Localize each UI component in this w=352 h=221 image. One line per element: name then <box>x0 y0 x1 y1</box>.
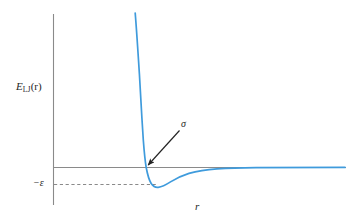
y-axis-label-subscript: LJ <box>23 85 31 94</box>
epsilon-tick-label: −ε <box>33 178 44 188</box>
sigma-annotation-label: σ <box>181 119 186 129</box>
plot-canvas <box>0 0 352 221</box>
lennard-jones-figure: ELJ(r) r −ε σ <box>0 0 352 221</box>
y-axis-label: ELJ(r) <box>16 81 42 94</box>
y-axis-label-symbol: E <box>16 80 23 92</box>
x-axis-label: r <box>195 201 199 212</box>
plot-background <box>0 0 352 221</box>
y-axis-label-argument: (r) <box>31 80 42 92</box>
